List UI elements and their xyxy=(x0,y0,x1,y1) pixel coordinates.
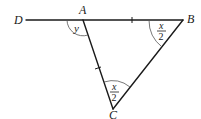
triangle-diagram: D A B C y x 2 x 2 xyxy=(0,0,201,119)
angle-label-B-denominator: 2 xyxy=(159,31,164,42)
point-label-C: C xyxy=(109,108,118,119)
point-label-B: B xyxy=(187,12,195,26)
segment-AC xyxy=(83,20,113,109)
angle-label-B-numerator: x xyxy=(158,20,164,31)
point-label-A: A xyxy=(78,3,87,17)
angle-label-A: y xyxy=(73,22,79,34)
point-label-D: D xyxy=(13,13,23,27)
angle-arc-C xyxy=(104,81,130,87)
segment-BC xyxy=(113,20,183,109)
angle-label-C-denominator: 2 xyxy=(112,92,117,103)
angle-label-C-numerator: x xyxy=(111,81,117,92)
